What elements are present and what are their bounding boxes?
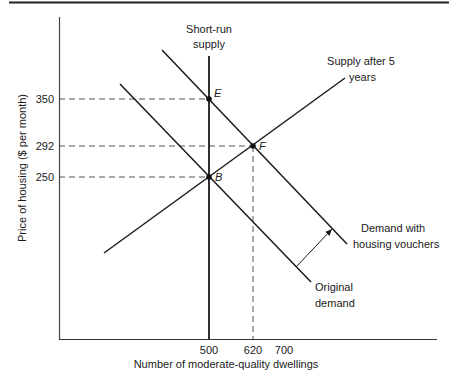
voucher-demand-label-2: housing vouchers — [353, 238, 440, 250]
chart: E F B 350 292 250 500 620 700 Number of … — [0, 0, 455, 383]
y-tick-292: 292 — [36, 140, 54, 152]
original-demand-line — [120, 84, 311, 282]
short-run-supply-label-1: Short-run — [186, 23, 232, 35]
point-f-label: F — [259, 140, 267, 152]
point-b-label: B — [215, 171, 222, 183]
x-axis-label: Number of moderate-quality dwellings — [134, 358, 319, 370]
point-f-marker — [250, 143, 256, 149]
demand-shift-arrow — [296, 229, 332, 267]
x-tick-500: 500 — [200, 344, 218, 356]
point-e-marker — [206, 96, 212, 102]
point-e-label: E — [214, 87, 222, 99]
y-tick-350: 350 — [36, 93, 54, 105]
guide-lines — [59, 99, 253, 339]
x-tick-700: 700 — [275, 344, 293, 356]
long-run-supply-label-1: Supply after 5 — [327, 55, 395, 67]
short-run-supply-label-2: supply — [193, 38, 225, 50]
x-tick-620: 620 — [244, 344, 262, 356]
y-axis-label: Price of housing ($ per month) — [16, 94, 28, 242]
long-run-supply-label-2: years — [349, 71, 376, 83]
original-demand-label-1: Original — [315, 281, 353, 293]
y-tick-250: 250 — [36, 171, 54, 183]
original-demand-label-2: demand — [315, 297, 355, 309]
voucher-demand-label-1: Demand with — [361, 222, 425, 234]
point-b-marker — [206, 174, 212, 180]
